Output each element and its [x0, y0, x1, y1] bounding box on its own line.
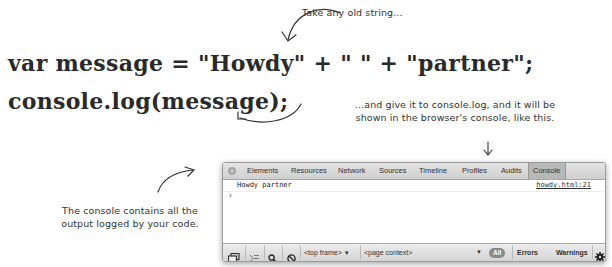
annotation-left-line2: output logged by your code. [40, 217, 220, 230]
tab-audits[interactable]: Audits [497, 163, 526, 179]
arrow-left-icon [158, 167, 194, 192]
tab-resources[interactable]: Resources [287, 163, 331, 179]
console-toolbar: <top frame> ▼ <page context> ▼ All Error… [223, 243, 605, 261]
chevron-down-icon: ▼ [344, 250, 350, 256]
tab-timeline[interactable]: Timeline [415, 163, 451, 179]
tab-profiles[interactable]: Profiles [458, 163, 491, 179]
context-dropdown-icon[interactable]: ▼ [476, 244, 482, 261]
annotation-left: The console contains all the output logg… [40, 204, 220, 230]
log-source-link[interactable]: howdy.html:21 [536, 181, 591, 189]
toolbar-divider [282, 246, 283, 259]
toolbar-divider [245, 246, 246, 259]
context-select[interactable]: <page context> [364, 244, 412, 261]
toolbar-divider [592, 246, 593, 259]
annotation-middle-line1: ...and give it to console.log, and it wi… [305, 98, 605, 111]
filter-all-button[interactable]: All [489, 248, 505, 258]
annotation-middle-line2: shown in the browser's console, like thi… [305, 111, 605, 124]
toolbar-divider [300, 246, 301, 259]
tab-network[interactable]: Network [334, 163, 370, 179]
log-message: Howdy partner [237, 181, 292, 189]
code-line-2: console.log(message); [8, 88, 288, 114]
clear-icon[interactable] [287, 248, 296, 262]
dock-icon[interactable] [228, 248, 240, 262]
gear-icon[interactable] [595, 247, 605, 262]
toolbar-divider [360, 246, 361, 259]
console-log-entry: Howdy partner howdy.html:21 [223, 180, 605, 192]
tab-elements[interactable]: Elements [243, 163, 282, 179]
annotation-left-line1: The console contains all the [40, 204, 220, 217]
annotation-top: Take any old string... [302, 6, 403, 19]
tab-sources[interactable]: Sources [375, 163, 411, 179]
code-line-1: var message = "Howdy" + " " + "partner"; [8, 50, 533, 76]
filter-warnings-button[interactable]: Warnings [556, 244, 588, 261]
console-drawer-icon[interactable] [249, 248, 260, 262]
search-icon[interactable] [268, 248, 277, 262]
devtools-tab-bar: × Elements Resources Network Sources Tim… [223, 163, 605, 180]
filter-errors-button[interactable]: Errors [517, 244, 538, 261]
annotation-middle: ...and give it to console.log, and it wi… [305, 98, 605, 124]
frame-select[interactable]: <top frame> ▼ [304, 244, 350, 261]
arrow-down-icon [484, 142, 492, 155]
toolbar-divider [512, 246, 513, 259]
tab-console[interactable]: Console [528, 163, 566, 179]
close-icon[interactable]: × [228, 167, 236, 175]
devtools-console-window: × Elements Resources Network Sources Tim… [222, 162, 606, 262]
console-prompt[interactable]: › [228, 191, 233, 200]
toolbar-divider [264, 246, 265, 259]
frame-select-label: <top frame> [304, 249, 342, 256]
